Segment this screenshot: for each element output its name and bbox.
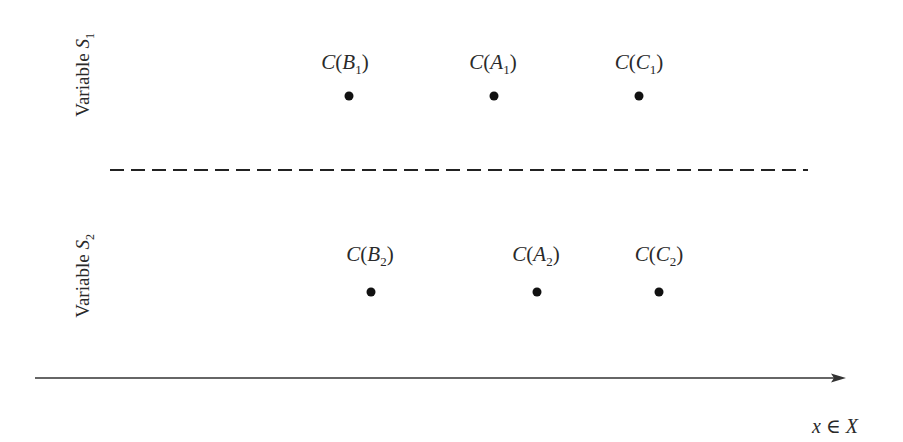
point-label-c-c1: C(C1) [615, 50, 664, 78]
data-point-c-c2 [655, 288, 664, 297]
axis-op: ∈ [821, 415, 846, 437]
arg-name: A [490, 50, 503, 74]
y-label-var: S [72, 240, 93, 250]
x-axis-label: x ∈ X [812, 414, 858, 438]
axis-set: X [846, 415, 858, 437]
arg-name: B [342, 50, 355, 74]
point-label-c-b2: C(B2) [346, 242, 393, 270]
point-label-c-a1: C(A1) [469, 50, 516, 78]
data-point-c-a2 [533, 288, 542, 297]
y-label-variable-s1: Variable S1 [72, 15, 98, 135]
data-point-c-a1 [490, 92, 499, 101]
axis-var: x [812, 415, 821, 437]
y-label-prefix: Variable [72, 250, 93, 318]
y-label-sub: 1 [83, 33, 97, 39]
fn-name: C [615, 50, 629, 74]
y-label-prefix: Variable [72, 49, 93, 117]
fn-name: C [512, 242, 526, 266]
fn-name: C [635, 242, 649, 266]
y-label-sub: 2 [83, 234, 97, 240]
fn-name: C [321, 50, 335, 74]
data-point-c-b2 [367, 288, 376, 297]
arg-name: C [656, 242, 670, 266]
arg-name: B [367, 242, 380, 266]
point-label-c-c2: C(C2) [635, 242, 684, 270]
data-point-c-b1 [345, 92, 354, 101]
y-label-variable-s2: Variable S2 [72, 216, 98, 336]
point-label-c-b1: C(B1) [321, 50, 368, 78]
fn-name: C [346, 242, 360, 266]
fn-name: C [469, 50, 483, 74]
arg-name: A [533, 242, 546, 266]
diagram-lines [0, 0, 903, 442]
data-point-c-c1 [635, 92, 644, 101]
y-label-var: S [72, 39, 93, 49]
point-label-c-a2: C(A2) [512, 242, 559, 270]
arg-name: C [636, 50, 650, 74]
